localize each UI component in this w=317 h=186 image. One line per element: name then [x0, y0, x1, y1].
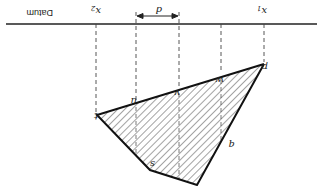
label-w: w: [215, 75, 224, 86]
hatched-area: [97, 64, 264, 185]
label-s: s: [150, 159, 155, 170]
label-p: p: [261, 62, 268, 73]
label-v: v: [174, 88, 180, 99]
label-x1: x1: [257, 4, 267, 17]
datum-label: Datum: [26, 8, 53, 18]
label-q: q: [229, 140, 235, 151]
label-t: t: [93, 111, 98, 122]
label-x2: x2: [90, 4, 101, 17]
label-u: u: [131, 96, 137, 107]
diagram-canvas: Datum x2 x1 d p w v u t s q: [0, 0, 317, 186]
label-d: d: [156, 5, 162, 16]
